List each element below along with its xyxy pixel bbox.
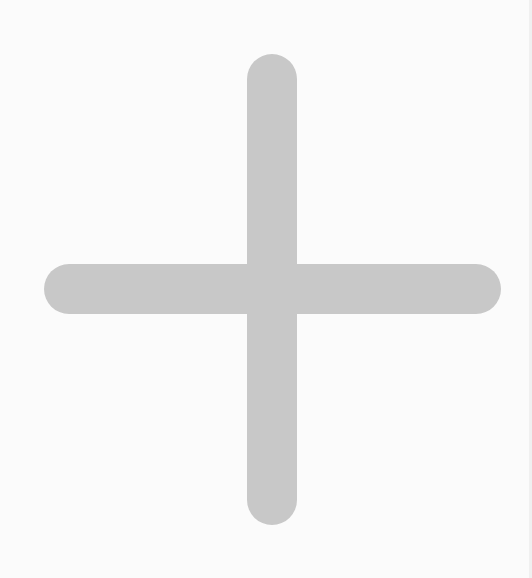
plus-icon-horizontal-bar [44, 264, 501, 314]
plus-icon [0, 0, 532, 578]
